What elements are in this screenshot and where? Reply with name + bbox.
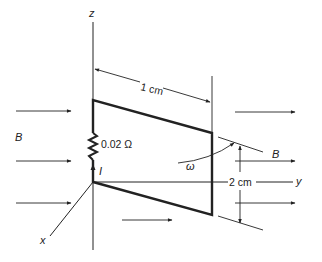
width-dimension: 1 cm bbox=[95, 69, 212, 133]
field-arrows-right: B bbox=[235, 112, 295, 203]
y-axis-label: y bbox=[295, 175, 303, 187]
resistance-label: 0.02 Ω bbox=[101, 138, 132, 150]
current-label: I bbox=[99, 165, 102, 177]
height-label: 2 cm bbox=[229, 176, 252, 188]
conducting-loop bbox=[93, 100, 212, 215]
field-arrows-left: B bbox=[15, 111, 71, 203]
y-axis: y bbox=[93, 175, 303, 187]
height-dimension: 2 cm bbox=[218, 137, 263, 230]
width-label: 1 cm bbox=[140, 80, 165, 97]
rotating-loop-diagram: z x y 0.02 Ω I 1 cm 2 cm bbox=[0, 0, 322, 262]
field-label-right: B bbox=[272, 148, 279, 160]
omega-label: ω bbox=[186, 160, 195, 172]
x-axis: x bbox=[39, 182, 93, 246]
field-label-left: B bbox=[15, 131, 22, 143]
resistor: 0.02 Ω bbox=[89, 133, 132, 160]
rotation-indicator: ω bbox=[178, 143, 234, 172]
x-axis-label: x bbox=[39, 234, 46, 246]
z-axis-label: z bbox=[88, 7, 95, 19]
